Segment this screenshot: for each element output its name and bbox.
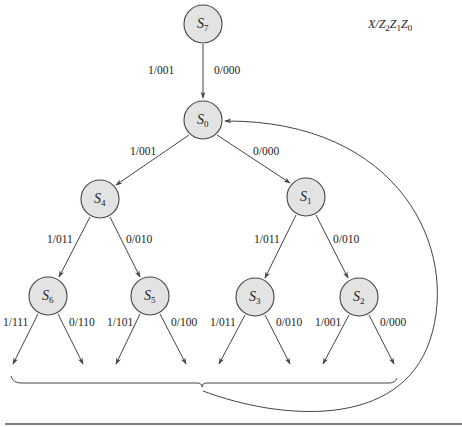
edge-s1-s3 xyxy=(265,215,296,278)
edge-s4-s5 xyxy=(110,217,140,277)
label-s7-right: 0/000 xyxy=(214,64,240,76)
label-s0-left: 1/001 xyxy=(130,145,156,157)
label-s3-right: 0/010 xyxy=(276,316,302,328)
label-s2-right: 0/000 xyxy=(380,316,406,328)
label-s6-right: 0/110 xyxy=(69,316,95,328)
state-s7: S7 xyxy=(184,5,222,43)
label-s2-left: 1/001 xyxy=(315,316,341,328)
label-s4-left: 1/011 xyxy=(47,233,73,245)
label-s5-right: 0/100 xyxy=(171,316,197,328)
label-s7-left: 1/001 xyxy=(148,64,174,76)
label-s4-right: 0/010 xyxy=(126,233,152,245)
label-s3-left: 1/011 xyxy=(210,316,236,328)
state-s4: S4 xyxy=(81,180,119,218)
label-s6-left: 1/111 xyxy=(3,316,29,328)
edge-s0-s1 xyxy=(217,135,290,183)
output-brace xyxy=(11,376,397,387)
edge-s4-s6 xyxy=(59,217,90,277)
label-s0-right: 0/000 xyxy=(253,145,279,157)
label-s1-left: 1/011 xyxy=(254,233,280,245)
state-s0: S0 xyxy=(184,101,222,139)
state-s1: S1 xyxy=(287,178,325,216)
legend-xz: X/Z2Z1Z0 xyxy=(367,17,413,33)
edge-s1-s2 xyxy=(316,215,348,278)
edge-s0-s4 xyxy=(116,135,189,185)
state-s5: S5 xyxy=(131,277,169,315)
edge-return-to-s0 xyxy=(203,121,437,412)
state-s6: S6 xyxy=(29,277,67,315)
state-s2: S2 xyxy=(340,278,378,316)
label-s1-right: 0/010 xyxy=(333,233,359,245)
state-s3: S3 xyxy=(236,278,274,316)
label-s5-left: 1/101 xyxy=(107,316,133,328)
state-diagram: X/Z2Z1Z0 1/001 0/000 1/001 0/000 1/011 0… xyxy=(0,0,462,427)
